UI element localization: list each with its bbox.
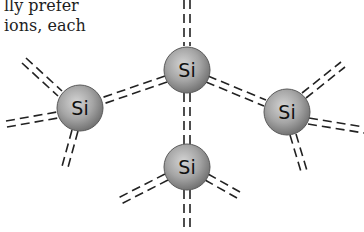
bond-top-bottom (184, 93, 190, 144)
atom-si-left: Si (57, 85, 103, 131)
bond-top-right (206, 76, 266, 106)
bond-top-up (184, 0, 190, 46)
atom-label: Si (178, 156, 195, 178)
atom-si-bottom: Si (164, 144, 210, 190)
bond-right-lower (290, 134, 308, 175)
bond-left-upper (22, 58, 62, 96)
bond-right-upper (302, 62, 345, 98)
bond-left-outer (6, 112, 58, 127)
atom-si-right: Si (264, 89, 310, 135)
atom-label: Si (178, 59, 195, 81)
bond-bottom-left (118, 174, 168, 204)
atom-label: Si (278, 101, 295, 123)
bond-right-outer (308, 118, 364, 133)
bond-bottom-down (184, 190, 190, 232)
bond-bottom-right (205, 174, 240, 198)
bond-left-lower (61, 130, 78, 171)
bond-top-left (101, 76, 167, 104)
silicon-bond-diagram: Si Si Si Si (0, 0, 364, 232)
atom-label: Si (71, 97, 88, 119)
atom-si-top: Si (164, 47, 210, 93)
